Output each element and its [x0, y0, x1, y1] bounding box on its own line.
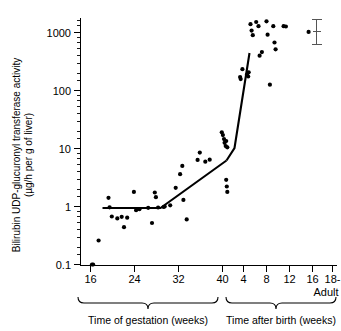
y-tick-label-1000: 1000 — [47, 27, 71, 39]
x-tick-label-p4: 4 — [240, 273, 246, 285]
data-point — [264, 19, 268, 23]
data-point — [203, 160, 207, 164]
x-tick-label-g40: 40 — [216, 273, 228, 285]
trend-line-gestation — [103, 161, 227, 209]
data-point — [122, 225, 126, 229]
x-axis-ticks — [91, 266, 333, 272]
data-point — [153, 190, 157, 194]
data-point — [258, 54, 262, 58]
data-point — [154, 195, 158, 199]
y-tick-label-1: 1 — [65, 201, 71, 213]
data-point — [254, 20, 258, 24]
data-point — [120, 215, 124, 219]
data-point — [106, 196, 110, 200]
data-point — [225, 145, 229, 149]
data-point — [163, 204, 167, 208]
data-point — [146, 206, 150, 210]
data-point — [198, 151, 202, 155]
data-point — [97, 238, 101, 242]
y-axis-title-line2: (µg/h per g of liver) — [23, 113, 34, 197]
error-bar — [312, 20, 322, 45]
chart-plot: Bilirubin UDP-glucuronyl transferase act… — [0, 0, 341, 331]
data-point — [110, 214, 114, 218]
data-point — [225, 190, 229, 194]
x-axis-tick-labels: 16 24 32 40 4 8 12 16 18- Adult — [84, 273, 340, 298]
y-tick-label-0.1: 0.1 — [56, 259, 71, 271]
data-point — [180, 164, 184, 168]
brace-gestation — [78, 297, 218, 309]
data-point — [272, 40, 276, 44]
data-point — [168, 203, 172, 207]
x-tick-label-g24: 24 — [128, 273, 140, 285]
x-tick-label-p12: 12 — [283, 273, 295, 285]
data-point — [256, 24, 260, 28]
y-tick-label-100: 100 — [53, 85, 71, 97]
data-point — [132, 190, 136, 194]
x-axis-title-gestation: Time of gestation (weeks) — [88, 314, 208, 326]
y-axis-title-line1: Bilirubin UDP-glucuronyl transferase act… — [11, 58, 22, 253]
brace-postnatal — [226, 297, 336, 309]
y-axis-ticks: 1000 100 10 1 0.1 — [47, 27, 81, 271]
data-point — [247, 70, 251, 74]
data-point — [178, 172, 182, 176]
data-point — [250, 29, 254, 33]
data-points-gestation — [90, 130, 230, 266]
data-point — [108, 205, 112, 209]
data-point — [115, 216, 119, 220]
x-tick-label-p8: 8 — [263, 273, 269, 285]
data-point — [181, 198, 185, 202]
data-point — [307, 30, 311, 34]
data-point — [240, 67, 244, 71]
data-point — [150, 221, 154, 225]
y-tick-label-10: 10 — [59, 143, 71, 155]
data-point — [284, 24, 288, 28]
data-point — [266, 33, 270, 37]
data-point — [239, 77, 243, 81]
data-point — [260, 50, 264, 54]
data-point — [185, 217, 189, 221]
data-point — [221, 133, 225, 137]
data-point — [125, 216, 129, 220]
data-point — [271, 24, 275, 28]
x-tick-label-p18: 18- — [325, 273, 341, 285]
figure-root: Bilirubin UDP-glucuronyl transferase act… — [0, 0, 341, 331]
data-point — [274, 47, 278, 51]
data-point — [224, 178, 228, 182]
x-axis-title-postnatal: Time after birth (weeks) — [226, 314, 336, 326]
data-point — [224, 139, 228, 143]
data-point — [156, 205, 160, 209]
data-point — [174, 186, 178, 190]
data-point — [268, 83, 272, 87]
data-point — [196, 158, 200, 162]
data-point — [246, 74, 250, 78]
x-tick-label-p16: 16 — [306, 273, 318, 285]
x-tick-label-g32: 32 — [172, 273, 184, 285]
data-point — [225, 184, 229, 188]
data-point — [251, 33, 255, 37]
data-point — [137, 207, 141, 211]
data-point — [91, 262, 95, 266]
x-tick-label-adult: Adult — [313, 286, 338, 298]
data-point — [208, 158, 212, 162]
data-point — [248, 22, 252, 26]
trend-line-postnatal — [227, 53, 250, 161]
x-tick-label-g16: 16 — [84, 273, 96, 285]
y-axis-title: Bilirubin UDP-glucuronyl transferase act… — [11, 58, 34, 253]
